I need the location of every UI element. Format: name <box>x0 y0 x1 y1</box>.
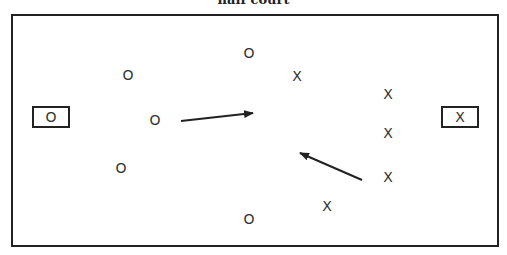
movement-arrow <box>181 113 253 121</box>
movement-arrow <box>300 153 362 180</box>
movement-arrows <box>0 0 507 255</box>
